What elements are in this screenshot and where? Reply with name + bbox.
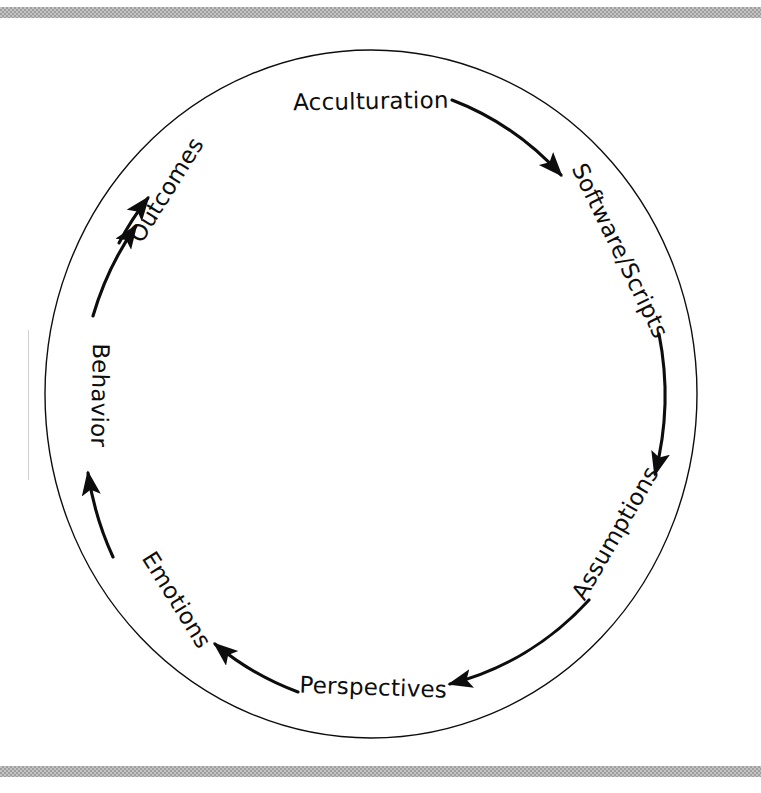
cycle-diagram: Acculturation Software/Scripts Assumptio… [0, 0, 761, 793]
stage-label-outcomes: Outcomes [124, 133, 209, 247]
stage-label-behavior: Behavior [86, 343, 114, 448]
outer-boundary-circle [45, 50, 697, 738]
stage-label-assumptions: Assumptions [566, 462, 663, 604]
arrow-software-to-assumptions [655, 334, 665, 474]
arrow-assumptions-to-perspectives [450, 600, 589, 684]
stage-label-acculturation: Acculturation [293, 87, 449, 116]
arrow-acculturation-to-software [452, 100, 561, 175]
stage-label-perspectives: Perspectives [299, 671, 447, 702]
arrow-behavior-to-outcomes [93, 226, 136, 316]
figure-canvas: Acculturation Software/Scripts Assumptio… [0, 0, 761, 793]
arrow-perspectives-to-emotions [215, 644, 298, 692]
stage-label-group: Acculturation Software/Scripts Assumptio… [86, 87, 674, 703]
stage-label-software-scripts: Software/Scripts [567, 159, 674, 342]
stage-label-emotions: Emotions [137, 547, 217, 653]
arrow-emotions-to-behavior [88, 473, 113, 557]
